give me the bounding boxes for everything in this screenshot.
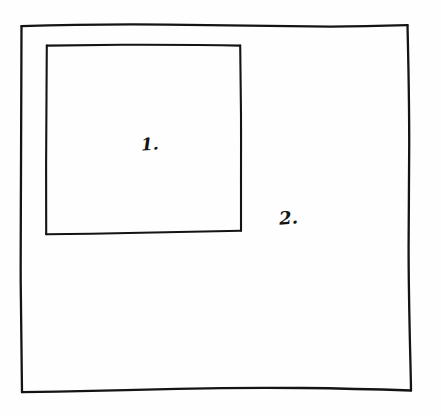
outer-rectangle-shape xyxy=(21,24,411,392)
region-label-1: 1. xyxy=(141,136,160,154)
outer-rectangle-top-edge xyxy=(22,24,408,26)
inner-rectangle-bottom-edge xyxy=(46,231,241,234)
outer-rectangle-left-edge xyxy=(21,26,22,392)
inner-rectangle-right-edge xyxy=(240,46,241,231)
inner-rectangle-left-edge xyxy=(46,46,47,235)
outer-rectangle-right-edge xyxy=(408,25,412,390)
outer-rectangle-bottom-edge xyxy=(22,388,411,392)
diagram-canvas: 1. 2. xyxy=(0,0,441,416)
diagram-svg xyxy=(0,0,441,416)
inner-rectangle-top-edge xyxy=(47,45,240,46)
region-label-2: 2. xyxy=(278,208,298,227)
